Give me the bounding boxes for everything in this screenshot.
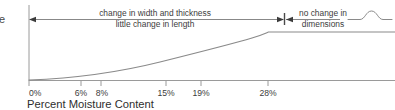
x-tick-label-15: 15% [157,88,175,98]
x-tick-label-28: 28% [259,88,277,98]
chart-canvas: e [0,0,395,110]
x-tick-label-8: 8% [96,88,109,98]
dimensional-change-curve [29,32,395,80]
right-annotation-line-2: dimensions [302,19,344,29]
x-axis-title: Percent Moisture Content [27,98,155,110]
y-axis-label-clipped: e [0,13,5,25]
x-tick-label-0: 0% [29,88,42,98]
x-axis-ticks [29,81,268,87]
x-tick-label-19: 19% [192,88,210,98]
right-annotation-line-1: no change in [299,8,347,18]
x-tick-label-6: 6% [75,88,88,98]
wavy-break-squiggle-icon [348,11,392,20]
left-annotation-line-2: little change in length [116,19,195,29]
moisture-content-chart: e [0,0,395,110]
left-annotation-line-1: change in width and thickness [99,8,211,18]
